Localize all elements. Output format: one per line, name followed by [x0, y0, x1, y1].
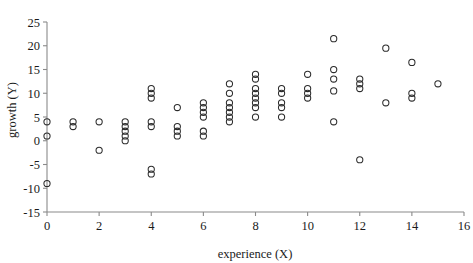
x-tick-label: 16 [458, 219, 471, 233]
y-tick-label: -5 [30, 158, 40, 172]
x-tick-label: 4 [148, 219, 155, 233]
y-tick-label: -15 [23, 206, 40, 220]
y-tick-label: 0 [34, 134, 40, 148]
scatter-chart: -15-10-50510152025 0246810121416 experie… [0, 0, 473, 263]
x-axis-ticks [47, 212, 464, 216]
data-point [96, 147, 102, 153]
y-tick-label: 15 [28, 63, 41, 77]
x-tick-label: 2 [96, 219, 102, 233]
data-point [331, 66, 337, 72]
x-axis-tick-labels: 0246810121416 [44, 219, 470, 233]
y-tick-label: -10 [23, 182, 40, 196]
data-point [331, 88, 337, 94]
y-axis: -15-10-50510152025 [23, 16, 47, 220]
data-point [278, 114, 284, 120]
data-point [174, 104, 180, 110]
data-point [383, 45, 389, 51]
data-point [357, 157, 363, 163]
data-point [226, 81, 232, 87]
data-point [305, 71, 311, 77]
data-point [331, 76, 337, 82]
data-point [383, 100, 389, 106]
y-tick-label: 5 [34, 111, 40, 125]
y-tick-label: 20 [28, 39, 41, 53]
data-point [252, 114, 258, 120]
x-tick-label: 8 [252, 219, 258, 233]
x-axis-title: experience (X) [218, 247, 293, 261]
x-tick-label: 12 [354, 219, 367, 233]
data-point-group [44, 36, 441, 187]
data-point [226, 90, 232, 96]
chart-canvas: -15-10-50510152025 0246810121416 experie… [0, 0, 473, 263]
data-point [331, 36, 337, 42]
x-tick-label: 6 [200, 219, 206, 233]
y-tick-label: 25 [28, 16, 41, 30]
x-tick-label: 14 [406, 219, 419, 233]
y-tick-label: 10 [28, 87, 41, 101]
data-point [409, 59, 415, 65]
x-axis: 0246810121416 [44, 212, 470, 233]
y-axis-title: growth (Y) [5, 82, 19, 138]
data-point [435, 81, 441, 87]
data-point [331, 119, 337, 125]
x-tick-label: 10 [301, 219, 314, 233]
y-axis-tick-labels: -15-10-50510152025 [23, 16, 40, 220]
x-tick-label: 0 [44, 219, 50, 233]
data-point [96, 119, 102, 125]
